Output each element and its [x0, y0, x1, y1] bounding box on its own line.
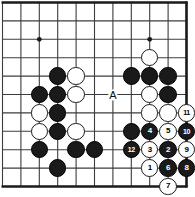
stone-move-number: 7: [166, 182, 170, 190]
black-stone: [49, 159, 66, 176]
black-stone: [123, 123, 140, 140]
stone-move-number: 11: [183, 109, 190, 116]
black-stone: [159, 67, 176, 84]
white-stone: [31, 123, 48, 140]
black-stone: [159, 86, 176, 103]
stone-move-number: 4: [148, 127, 152, 135]
point-marker-a: A: [108, 89, 117, 100]
black-stone: [123, 67, 140, 84]
white-stone: [141, 49, 158, 66]
stone-move-number: 3: [148, 146, 152, 154]
white-stone: [67, 123, 84, 140]
black-stone-2: 2: [159, 141, 176, 158]
white-stone-5: 5: [159, 123, 176, 140]
go-board-diagram: 114510123291687A: [0, 0, 195, 197]
white-stone: [141, 86, 158, 103]
white-stone-9: 9: [178, 141, 195, 158]
black-stone-12: 12: [123, 141, 140, 158]
black-stone-4: 4: [141, 123, 158, 140]
black-stone: [86, 141, 103, 158]
white-stone: [67, 67, 84, 84]
stone-move-number: 1: [148, 164, 152, 172]
black-stone: [67, 141, 84, 158]
stone-move-number: 9: [184, 146, 188, 154]
black-stone: [49, 67, 66, 84]
white-stone-7: 7: [159, 178, 176, 195]
stone-move-number: 10: [183, 128, 190, 135]
black-stone: [31, 141, 48, 158]
white-stone: [159, 104, 176, 121]
black-stone: [141, 67, 158, 84]
stone-move-number: 6: [166, 164, 170, 172]
stone-move-number: 12: [128, 146, 135, 153]
black-stone-6: 6: [159, 159, 176, 176]
stone-move-number: 5: [166, 127, 170, 135]
white-stone: [31, 104, 48, 121]
stone-move-number: 2: [166, 146, 170, 154]
black-stone: [31, 86, 48, 103]
white-stone: [141, 104, 158, 121]
black-stone-10: 10: [178, 123, 195, 140]
black-stone: [49, 104, 66, 121]
white-stone-3: 3: [141, 141, 158, 158]
white-stone-1: 1: [141, 159, 158, 176]
stone-move-number: 8: [184, 164, 188, 172]
black-stone-8: 8: [178, 159, 195, 176]
white-stone: [67, 86, 84, 103]
black-stone: [49, 86, 66, 103]
white-stone-11: 11: [178, 104, 195, 121]
stone-layer: 114510123291687A: [0, 0, 195, 197]
black-stone: [49, 123, 66, 140]
